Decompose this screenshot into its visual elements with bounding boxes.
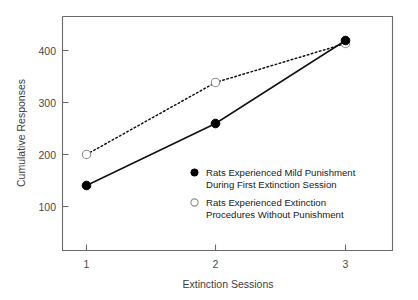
x-tick-label-2: 2 (213, 258, 219, 270)
chart-legend: Rats Experienced Mild Punishment During … (191, 167, 356, 220)
chart-figure: 400 300 200 100 1 2 3 Extinction Session… (0, 0, 418, 300)
x-tick-label-3: 3 (343, 258, 349, 270)
series-no-punishment (82, 39, 349, 158)
data-point-mild-punishment-session-1 (82, 181, 91, 190)
line-chart: 400 300 200 100 1 2 3 Extinction Session… (0, 0, 418, 300)
series-mild-punishment-line (87, 41, 346, 186)
legend-entry-2-line-2: Procedures Without Punishment (206, 209, 344, 220)
data-point-mild-punishment-session-3 (341, 36, 350, 45)
y-tick-label-200: 200 (38, 149, 56, 161)
series-no-punishment-line (87, 44, 346, 155)
y-tick-label-400: 400 (38, 45, 56, 57)
y-tick-label-100: 100 (38, 201, 56, 213)
data-point-no-punishment-session-2 (211, 78, 219, 86)
x-tick-label-1: 1 (84, 258, 90, 270)
data-point-mild-punishment-session-2 (211, 119, 220, 128)
x-axis-title: Extinction Sessions (182, 278, 273, 290)
x-axis-tick-labels: 1 2 3 (84, 258, 349, 270)
y-axis-ticks (63, 51, 69, 207)
legend-marker-filled-circle-icon (191, 169, 198, 176)
data-point-no-punishment-session-1 (82, 150, 90, 158)
y-tick-label-300: 300 (38, 97, 56, 109)
x-axis-ticks (87, 245, 346, 251)
legend-entry-1-line-1: Rats Experienced Mild Punishment (206, 167, 356, 178)
y-axis-tick-labels: 400 300 200 100 (38, 45, 56, 213)
legend-entry-2-line-1: Rats Experienced Extinction (206, 197, 326, 208)
legend-entry-1-line-2: During First Extinction Session (206, 179, 337, 190)
legend-marker-open-circle-icon (191, 199, 198, 206)
y-axis-title: Cumulative Responses (15, 79, 27, 187)
